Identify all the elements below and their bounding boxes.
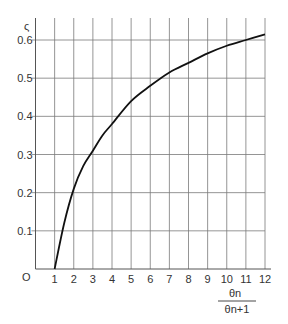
x-tick-label: 6 [147,273,153,285]
x-tick-label: 12 [259,273,271,285]
y-axis-label: ς [24,20,29,32]
x-axis-label-denominator: θn+1 [225,303,250,315]
x-axis-label-numerator: θn [229,287,241,299]
series [55,34,265,269]
y-tick-label: 0.6 [17,34,32,46]
x-tick-label: 9 [205,273,211,285]
tick-labels: 1234567891011120.10.20.30.40.50.6 [17,34,271,285]
grid [32,18,266,269]
x-tick-label: 8 [185,273,191,285]
x-tick-label: 5 [128,273,134,285]
y-tick-label: 0.1 [17,225,32,237]
y-tick-label: 0.4 [17,110,32,122]
x-tick-label: 7 [166,273,172,285]
x-tick-label: 10 [221,273,233,285]
x-tick-label: 4 [109,273,115,285]
series-line [55,34,265,269]
x-tick-label: 2 [71,273,77,285]
x-tick-label: 3 [90,273,96,285]
x-tick-label: 1 [52,273,58,285]
y-tick-label: 0.3 [17,149,32,161]
axes [36,18,272,269]
x-tick-label: 11 [240,273,251,285]
chart: 1234567891011120.10.20.30.40.50.6 ς O θn… [0,0,288,324]
y-tick-label: 0.5 [17,72,32,84]
origin-label: O [22,271,31,283]
y-tick-label: 0.2 [17,187,32,199]
x-axis-label: θn θn+1 [218,287,256,315]
